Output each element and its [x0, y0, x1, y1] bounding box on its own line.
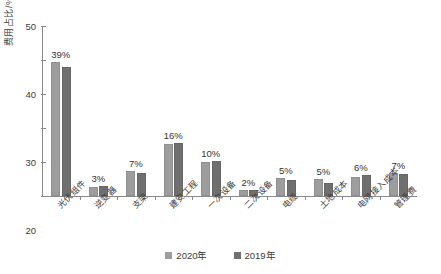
bar-value-label: 5% [316, 166, 330, 177]
bar [276, 178, 285, 196]
bar-chart: 费用占比/% 01020304050 39%3%7%16%10%2%5%5%6%… [0, 0, 441, 274]
x-tick [380, 196, 381, 200]
bar-group: 6% [342, 26, 380, 196]
legend-item-2019: 2019年 [234, 248, 276, 262]
y-tick-label: 40 [25, 89, 36, 100]
x-tick [230, 196, 231, 200]
x-tick [342, 196, 343, 200]
bar [51, 62, 60, 196]
bar-value-label: 16% [164, 130, 183, 141]
bar-value-label: 7% [129, 158, 143, 169]
bar-value-label: 6% [354, 162, 368, 173]
x-tick [305, 196, 306, 200]
bar-group: 2% [230, 26, 268, 196]
y-tick-label: 30 [25, 157, 36, 168]
bar-value-label: 2% [241, 177, 255, 188]
legend-label: 2020年 [176, 248, 207, 262]
bar [126, 171, 135, 196]
legend: 2020年 2019年 [0, 248, 441, 262]
bar-value-label: 39% [51, 49, 70, 60]
legend-item-2020: 2020年 [165, 248, 207, 262]
legend-swatch-icon [234, 252, 241, 259]
bar-group: 16% [155, 26, 193, 196]
bar [89, 187, 98, 196]
bar [62, 67, 71, 196]
x-tick [267, 196, 268, 200]
legend-swatch-icon [165, 252, 172, 259]
legend-label: 2019年 [245, 248, 276, 262]
bar-value-label: 3% [91, 173, 105, 184]
plot-area: 01020304050 39%3%7%16%10%2%5%5%6%7% [42, 26, 417, 196]
x-tick [80, 196, 81, 200]
bar [314, 179, 323, 196]
bar [201, 162, 210, 196]
y-tick-label: 50 [25, 21, 36, 32]
bar-group: 3% [80, 26, 118, 196]
x-tick [117, 196, 118, 200]
bar-group: 39% [42, 26, 80, 196]
y-tick: 0 [41, 196, 46, 197]
bar-value-label: 5% [279, 165, 293, 176]
bar-value-label: 10% [201, 148, 220, 159]
bar [351, 177, 360, 196]
bar-group: 10% [192, 26, 230, 196]
y-tick-label: 20 [25, 225, 36, 236]
x-tick [192, 196, 193, 200]
y-axis-label: 费用占比/% [2, 0, 15, 46]
bar-group: 7% [117, 26, 155, 196]
bar-group: 5% [267, 26, 305, 196]
bar-group: 5% [305, 26, 343, 196]
bar [164, 144, 173, 196]
x-tick [155, 196, 156, 200]
